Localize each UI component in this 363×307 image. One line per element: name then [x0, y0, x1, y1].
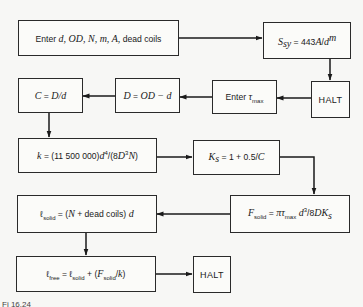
- node-halt-2: HALT: [193, 256, 231, 293]
- node-ssy-label: Ssy = 443A/dm: [278, 32, 336, 50]
- node-k-label: k = (11 500 000)d4/(8D3N): [37, 150, 138, 161]
- node-D: D = OD − d: [115, 78, 180, 113]
- node-F-solid-label: Fsolid = πτmax d3/8DKs: [248, 207, 332, 221]
- node-D-label: D = OD − d: [123, 90, 171, 101]
- node-l-free-label: ℓfree = ℓsolid + (Fsolid/k): [47, 268, 126, 281]
- node-l-free: ℓfree = ℓsolid + (Fsolid/k): [16, 256, 156, 292]
- halt-label: HALT: [200, 270, 224, 280]
- node-ssy: Ssy = 443A/dm: [263, 22, 351, 59]
- node-enter-tau: Enter τmax: [212, 80, 277, 114]
- node-enter-tau-label: Enter τmax: [226, 91, 264, 104]
- node-F-solid: Fsolid = πτmax d3/8DKs: [230, 195, 350, 233]
- node-l-solid-label: ℓsolid = (N + dead coils) d: [40, 208, 133, 221]
- node-input-label: Enter d, OD, N, m, A, dead coils: [36, 33, 162, 44]
- node-l-solid: ℓsolid = (N + dead coils) d: [17, 195, 157, 233]
- halt-label: HALT: [319, 95, 343, 105]
- node-halt-1: HALT: [311, 81, 350, 118]
- node-Ks: Ks = 1 + 0.5/C: [193, 140, 280, 175]
- node-C-label: C = D/d: [35, 90, 66, 101]
- figure-caption: Fi 16.24: [2, 298, 31, 307]
- node-C: C = D/d: [18, 78, 83, 113]
- node-Ks-label: Ks = 1 + 0.5/C: [209, 151, 265, 165]
- node-input: Enter d, OD, N, m, A, dead coils: [18, 20, 179, 56]
- node-k: k = (11 500 000)d4/(8D3N): [18, 138, 157, 173]
